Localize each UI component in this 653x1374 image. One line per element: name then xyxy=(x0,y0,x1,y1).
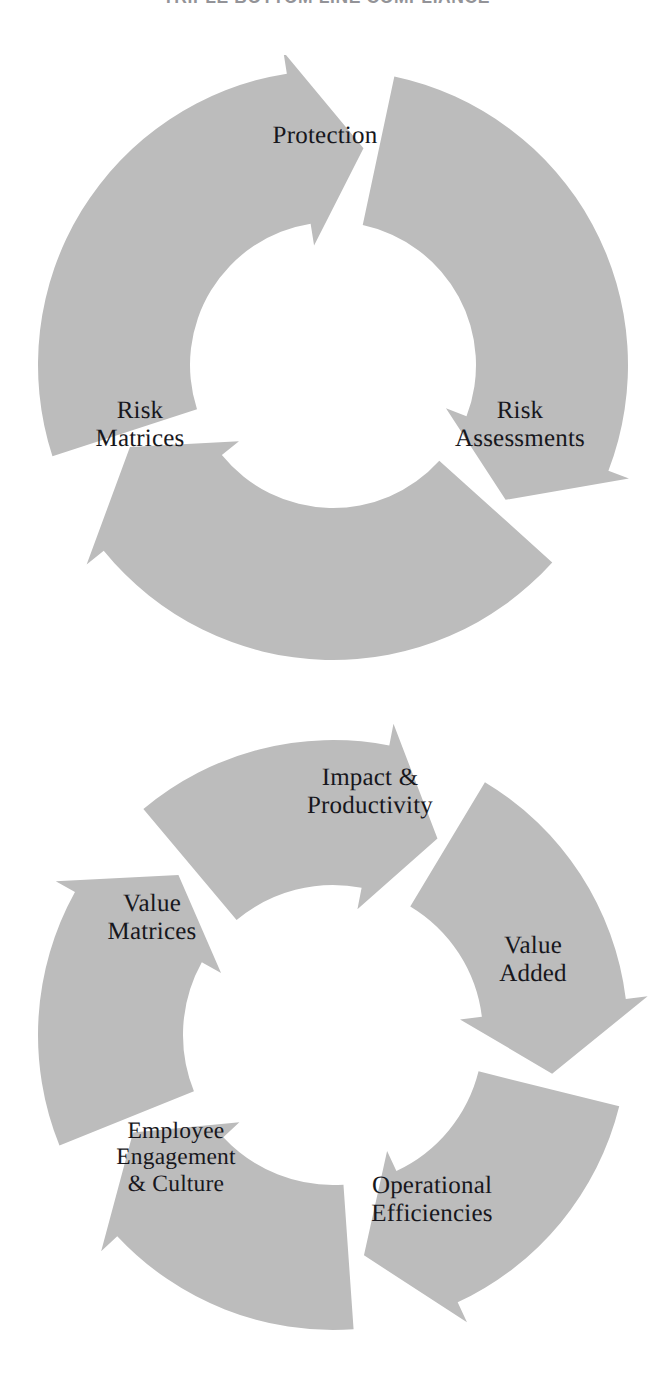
cycle-segment-label: Risk Assessments xyxy=(455,397,585,453)
cycle-segment-label: Impact & Productivity xyxy=(307,764,433,820)
cycle-segment-label: Risk Matrices xyxy=(95,397,184,453)
value-cycle-diagram: Impact & ProductivityValue AddedOperatio… xyxy=(0,722,653,1352)
page-root: TRIPLE BOTTOM LINE COMPLIANCE Protection… xyxy=(0,0,653,1374)
cycle-segment-label: Employee Engagement & Culture xyxy=(116,1118,235,1197)
cycle-segment-1 xyxy=(410,782,647,1074)
cycle-segment-label: Protection xyxy=(273,122,378,150)
cycle-segment-label: Value Added xyxy=(499,932,567,988)
cycle-segment-label: Value Matrices xyxy=(107,890,196,946)
cycle-segment-2 xyxy=(87,441,553,660)
page-title: TRIPLE BOTTOM LINE COMPLIANCE xyxy=(0,0,653,8)
cycle-segment-3 xyxy=(38,55,363,456)
cycle-segment-label: Operational Efficiencies xyxy=(371,1172,492,1228)
compliance-cycle-diagram: ProtectionRisk AssessmentsRisk Matrices xyxy=(0,55,653,685)
